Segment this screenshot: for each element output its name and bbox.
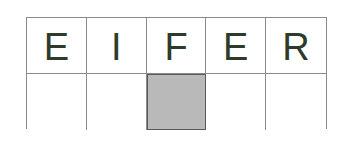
bottom-cell-3-shaded[interactable] xyxy=(147,74,207,130)
letter-grid: E I F E R xyxy=(26,17,327,129)
letter: F xyxy=(164,26,187,66)
top-cell-4: E xyxy=(206,18,266,74)
top-cell-3: F xyxy=(147,18,207,74)
top-cell-1: E xyxy=(27,18,87,74)
top-cell-5: R xyxy=(266,18,326,74)
bottom-cell-5[interactable] xyxy=(266,74,326,130)
letter: E xyxy=(44,26,69,66)
bottom-cell-4[interactable] xyxy=(206,74,266,130)
letter: E xyxy=(223,26,248,66)
top-cell-2: I xyxy=(87,18,147,74)
bottom-cell-1[interactable] xyxy=(27,74,87,130)
bottom-cell-2[interactable] xyxy=(87,74,147,130)
letter: I xyxy=(111,26,122,66)
letter: R xyxy=(282,26,309,66)
